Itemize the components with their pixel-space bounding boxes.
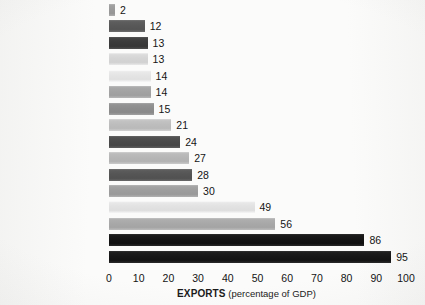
- bar-value-label: 49: [260, 199, 272, 215]
- x-axis-title: EXPORTS (percentage of GDP): [0, 288, 425, 300]
- bar: [109, 119, 171, 131]
- bar: [109, 169, 192, 181]
- bar-value-label: 95: [396, 249, 408, 265]
- bar: [109, 37, 148, 49]
- bar: [109, 218, 275, 230]
- bar: [109, 86, 151, 98]
- bar-chart: Myanmar2Pakistan12Brazil13Haiti13Ethiopi…: [0, 0, 425, 305]
- bar-value-label: 13: [153, 51, 165, 67]
- bar-value-label: 2: [120, 2, 126, 18]
- bar-value-label: 14: [156, 68, 168, 84]
- bar: [109, 103, 154, 115]
- bar: [109, 152, 189, 164]
- bar: [109, 201, 255, 213]
- bar: [109, 20, 145, 32]
- bar-value-label: 28: [197, 167, 209, 183]
- bar-value-label: 24: [185, 134, 197, 150]
- bar-value-label: 15: [159, 101, 171, 117]
- bar-value-label: 86: [369, 232, 381, 248]
- bar-value-label: 30: [203, 183, 215, 199]
- bar: [109, 234, 364, 246]
- x-axis-title-strong: EXPORTS: [177, 288, 226, 299]
- bar: [109, 4, 115, 16]
- x-tick-label: 100: [386, 272, 425, 284]
- bar: [109, 70, 151, 82]
- bar: [109, 251, 391, 263]
- bar-value-label: 21: [176, 117, 188, 133]
- bar: [109, 185, 198, 197]
- bar-value-label: 13: [153, 35, 165, 51]
- bar-value-label: 14: [156, 84, 168, 100]
- bar: [109, 53, 148, 65]
- bar: [109, 136, 180, 148]
- bar-value-label: 56: [280, 216, 292, 232]
- bar-value-label: 12: [150, 18, 162, 34]
- bar-value-label: 27: [194, 150, 206, 166]
- x-axis-ticks: 0102030405060708090100: [0, 272, 425, 286]
- x-axis-title-rest: (percentage of GDP): [226, 288, 316, 299]
